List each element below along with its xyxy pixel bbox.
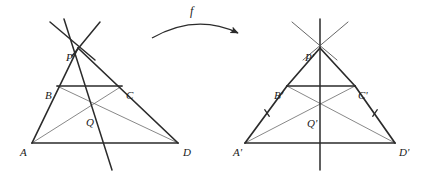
point-label-c: C xyxy=(126,90,133,101)
right-segment-ac xyxy=(245,86,355,143)
right-segment-pc xyxy=(320,48,355,86)
point-label-d-prime: D' xyxy=(399,147,409,158)
point-label-q: Q xyxy=(86,117,94,128)
right-segment-bd xyxy=(287,86,395,143)
point-label-p-prime: P' xyxy=(305,52,314,63)
point-label-a-prime: A' xyxy=(233,147,242,158)
point-label-b-prime: B' xyxy=(274,90,283,101)
map-label-f: f xyxy=(190,5,193,17)
left-segment-bd xyxy=(57,86,178,143)
geometry-figure: A B C D P Q A' B' C' D' P' Q' f xyxy=(0,0,429,177)
f-arrow xyxy=(152,24,238,38)
right-segment-bp xyxy=(287,48,320,86)
point-label-a: A xyxy=(20,147,27,158)
point-label-b: B xyxy=(45,90,52,101)
right-figure xyxy=(245,19,395,170)
left-figure xyxy=(32,19,178,170)
f-arrow-curve xyxy=(152,24,238,38)
point-label-d: D xyxy=(183,147,191,158)
point-label-p: P xyxy=(66,52,73,63)
point-label-c-prime: C' xyxy=(358,90,368,101)
point-label-q-prime: Q' xyxy=(307,118,317,129)
left-line-through-P-and-Q xyxy=(64,19,112,170)
